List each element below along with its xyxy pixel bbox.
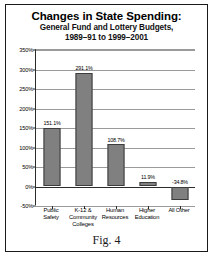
category-label-line: Higher: [131, 207, 163, 214]
bar-value-label: 291.1%: [75, 65, 92, 71]
y-axis-tick-label: 150%: [19, 125, 33, 131]
y-axis-tick-label: -50%: [21, 203, 33, 209]
x-axis-category-label: K-12 &CommunityColleges: [67, 207, 99, 229]
category-label-line: K-12 &: [67, 207, 99, 214]
y-axis-tick-label: 350%: [19, 47, 33, 53]
x-axis-category-label: PublicSafety: [35, 207, 67, 221]
figure-caption: Fig. 4: [6, 233, 207, 248]
plot-area: 350%300%250%200%150%100%50%0%-50% 151.1%…: [35, 49, 195, 205]
figure-frame: Changes in State Spending: General Fund …: [5, 4, 208, 252]
y-axis-tick-label: 50%: [22, 164, 33, 170]
y-axis-tick-label: 300%: [19, 67, 33, 73]
x-axis-category-label: HumanResources: [99, 207, 131, 221]
bar-group: 151.1%: [36, 50, 68, 205]
bar[interactable]: [44, 128, 61, 187]
plot-wrapper: 350%300%250%200%150%100%50%0%-50% 151.1%…: [6, 5, 208, 252]
y-axis-tick-label: 200%: [19, 106, 33, 112]
bar[interactable]: [108, 144, 125, 186]
category-label-line: Human: [99, 207, 131, 214]
bar-value-label: 11.9%: [141, 174, 155, 180]
category-label-line: Safety: [35, 214, 67, 221]
bar-value-label: 108.7%: [107, 137, 124, 143]
bar-group: -34.8%: [164, 50, 196, 205]
category-label-line: Community: [67, 214, 99, 221]
y-axis-tick-label: 0%: [25, 184, 33, 190]
x-axis-category-label: All Other: [163, 207, 195, 214]
bar-group: 291.1%: [68, 50, 100, 205]
bar-value-label: -34.8%: [172, 179, 188, 185]
bar[interactable]: [76, 73, 93, 187]
category-label-line: Education: [131, 214, 163, 221]
bar[interactable]: [172, 187, 189, 201]
y-axis-tick-label: 250%: [19, 86, 33, 92]
bars-layer: 151.1%291.1%108.7%11.9%-34.8%: [36, 50, 195, 205]
bar-group: 11.9%: [132, 50, 164, 205]
x-axis-category-label: HigherEducation: [131, 207, 163, 221]
bar[interactable]: [140, 182, 157, 187]
category-label-line: Public: [35, 207, 67, 214]
bar-value-label: 151.1%: [43, 120, 60, 126]
category-label-line: All Other: [163, 207, 195, 214]
category-label-line: Resources: [99, 214, 131, 221]
bar-group: 108.7%: [100, 50, 132, 205]
category-label-line: Colleges: [67, 221, 99, 228]
y-axis-tick-label: 100%: [19, 145, 33, 151]
